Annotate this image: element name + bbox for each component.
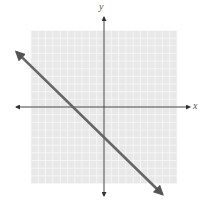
y-axis-label: y <box>99 1 103 12</box>
coordinate-plane <box>0 0 205 206</box>
x-axis-label: x <box>193 100 197 111</box>
